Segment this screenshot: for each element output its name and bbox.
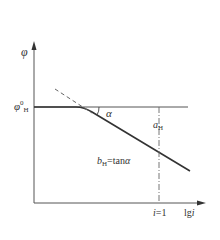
- phi-symbol: φ: [21, 45, 28, 59]
- slope-equation: =tan: [107, 155, 125, 166]
- x-axis-arrow-icon: [197, 201, 206, 206]
- tick-value: =1: [156, 207, 167, 218]
- alpha-symbol: α: [106, 107, 112, 119]
- slope-angle: α: [125, 155, 130, 166]
- y-axis-label: φ: [21, 46, 28, 58]
- extrapolation-dashed-line: [55, 89, 92, 113]
- y-axis-arrow-icon: [32, 41, 37, 50]
- x-axis-label: lgi: [184, 208, 195, 218]
- baseline-subscript: H: [24, 106, 29, 114]
- baseline-label: φ0H: [14, 100, 29, 114]
- angle-arc: [97, 107, 99, 115]
- intercept-subscript: H: [158, 124, 163, 132]
- intercept-label: aH: [153, 120, 163, 132]
- slope-label: bH=tanα: [97, 156, 130, 168]
- tick-label-i-1: i=1: [153, 208, 166, 218]
- angle-label: α: [106, 108, 112, 119]
- x-axis-var: i: [192, 207, 195, 218]
- x-axis-prefix: lg: [184, 207, 192, 218]
